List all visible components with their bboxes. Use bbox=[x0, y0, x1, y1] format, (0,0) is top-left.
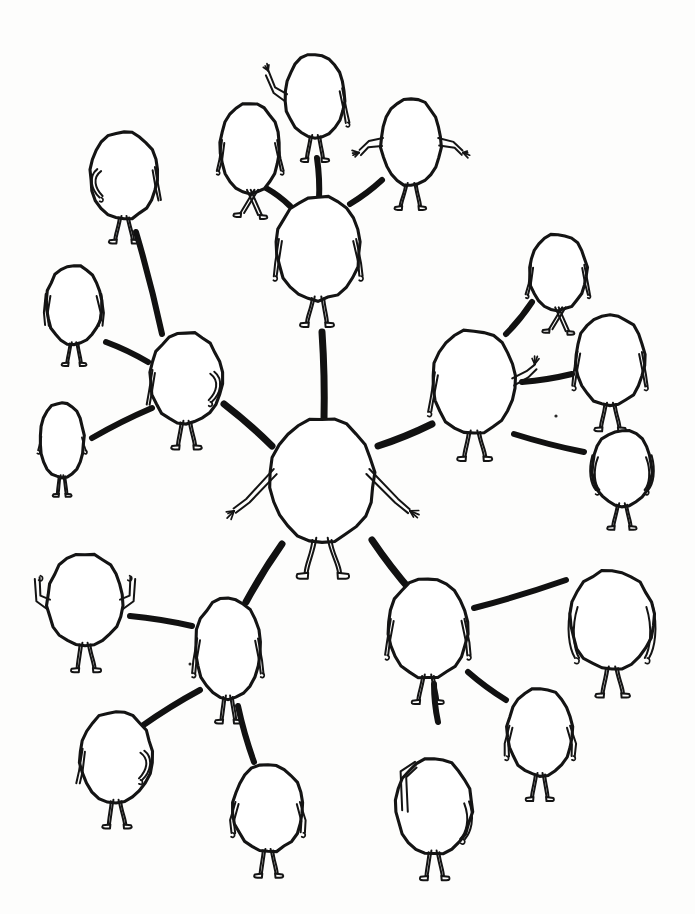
edge-stroke bbox=[322, 332, 324, 420]
figure-body bbox=[388, 579, 468, 678]
figure-body bbox=[233, 765, 303, 852]
figure-body bbox=[79, 712, 152, 803]
figure-body bbox=[575, 315, 645, 406]
connection-edge[interactable] bbox=[317, 158, 319, 200]
figure-body bbox=[433, 330, 515, 433]
figure-body bbox=[90, 132, 158, 219]
figure-body bbox=[47, 554, 124, 645]
figure-body bbox=[46, 266, 101, 345]
ink-speck bbox=[189, 663, 192, 666]
figure-body bbox=[196, 598, 261, 700]
network-diagram bbox=[0, 0, 695, 914]
edge-stroke bbox=[317, 158, 319, 200]
figure-body bbox=[381, 99, 442, 185]
figure-body bbox=[40, 403, 84, 478]
figure-body bbox=[507, 689, 573, 777]
figure-body bbox=[276, 196, 360, 301]
figure-body bbox=[285, 55, 345, 139]
figure-body bbox=[270, 419, 375, 542]
figure-body bbox=[530, 234, 588, 311]
figure-body bbox=[592, 431, 652, 507]
figure-body bbox=[570, 571, 655, 670]
connection-edge[interactable] bbox=[322, 332, 324, 420]
figure-body bbox=[150, 333, 223, 425]
ink-speck bbox=[554, 414, 557, 417]
figure-body bbox=[220, 104, 279, 194]
artwork-canvas bbox=[0, 0, 695, 914]
